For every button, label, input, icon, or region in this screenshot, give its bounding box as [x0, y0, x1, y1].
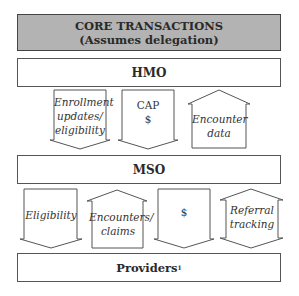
flow-dollar-label: $ — [158, 205, 210, 219]
flow-enrollment-label: Enrollmentupdates/eligibility — [54, 95, 106, 137]
flow-encounter-data-label: Encounterdata — [192, 112, 246, 140]
flow-eligibility-label: Eligibility — [20, 208, 82, 222]
flow-referral-label: Referraltracking — [222, 203, 282, 231]
flow-arrows — [0, 0, 299, 296]
flow-encounters-claims-label: Encounters/claims — [89, 210, 147, 238]
flow-cap-label: CAP$ — [122, 98, 174, 126]
